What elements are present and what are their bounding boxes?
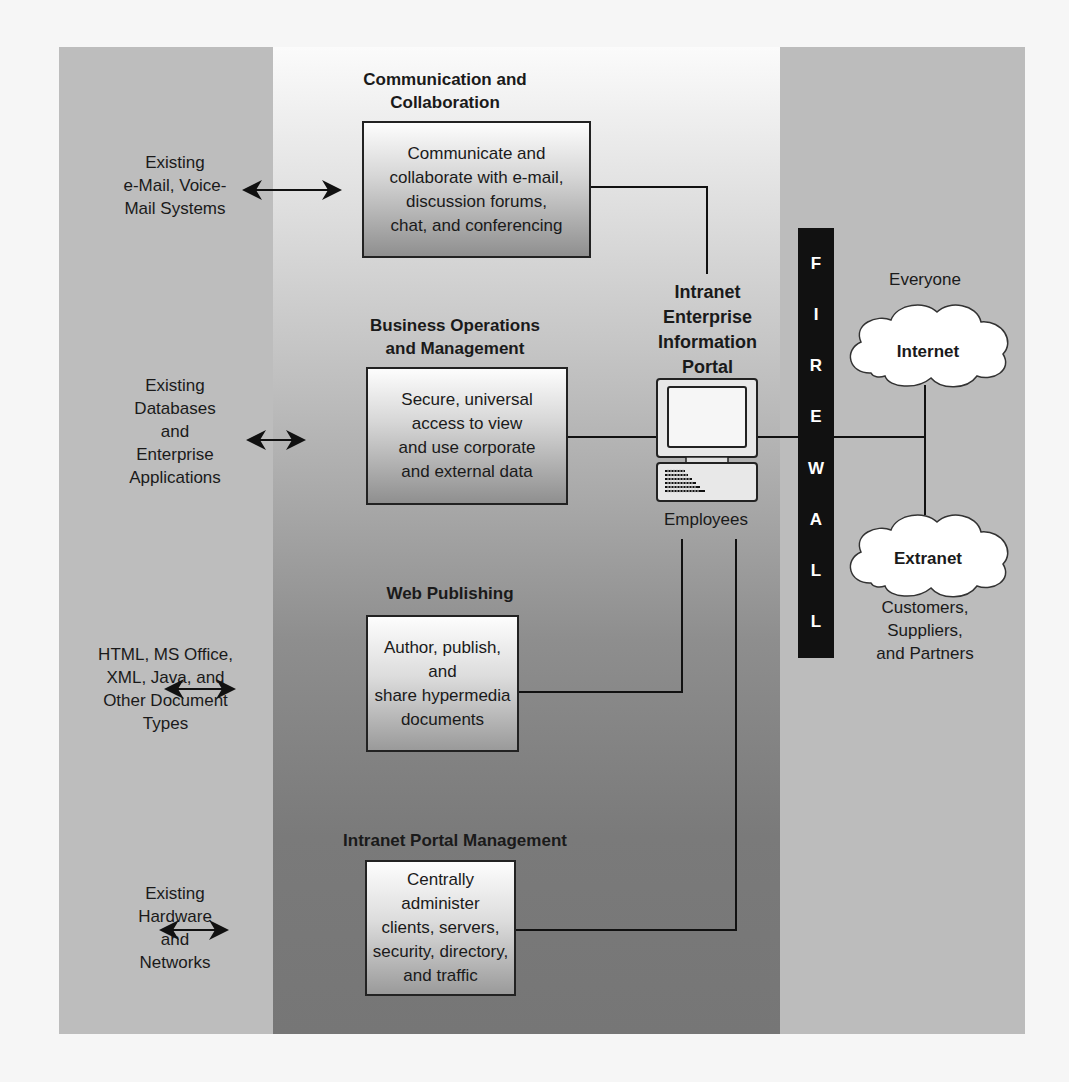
web-publishing-box: Author, publish, and share hypermedia do… <box>366 615 519 752</box>
web-connector-vertical <box>681 539 683 693</box>
portal-title: Intranet Enterprise Information Portal <box>625 280 790 380</box>
communication-collaboration-box: Communicate and collaborate with e-mail,… <box>362 121 591 258</box>
internet-label: Internet <box>868 340 988 363</box>
firewall-letter: L <box>811 561 821 581</box>
web-connector <box>519 691 683 693</box>
employees-label: Employees <box>636 508 776 531</box>
business-connector <box>568 436 656 438</box>
communication-collaboration-title: Communication and Collaboration <box>345 68 545 114</box>
customers-suppliers-partners-label: Customers, Suppliers, and Partners <box>855 596 995 665</box>
firewall-letter: E <box>810 407 821 427</box>
business-operations-title: Business Operations and Management <box>345 314 565 360</box>
firewall-letter: R <box>810 356 822 376</box>
firewall-letter: L <box>811 612 821 632</box>
computer-icon <box>656 378 760 503</box>
comm-connector <box>591 186 708 188</box>
firewall-letter: F <box>811 254 821 274</box>
everyone-label: Everyone <box>865 268 985 291</box>
portal-management-box: Centrally administer clients, servers, s… <box>365 860 516 996</box>
firewall: F I R E W A L L <box>798 228 834 658</box>
extranet-label: Extranet <box>868 547 988 570</box>
portal-management-title: Intranet Portal Management <box>325 829 585 852</box>
mgmt-connector <box>516 929 737 931</box>
web-publishing-title: Web Publishing <box>350 582 550 605</box>
firewall-letter: W <box>808 459 824 479</box>
comm-connector-vertical <box>706 186 708 274</box>
firewall-letter: I <box>814 305 819 325</box>
internet-extranet-link <box>924 385 926 515</box>
mgmt-connector-vertical <box>735 539 737 931</box>
portal-to-network-line <box>756 436 926 438</box>
firewall-letter: A <box>810 510 822 530</box>
business-operations-box: Secure, universal access to view and use… <box>366 367 568 505</box>
